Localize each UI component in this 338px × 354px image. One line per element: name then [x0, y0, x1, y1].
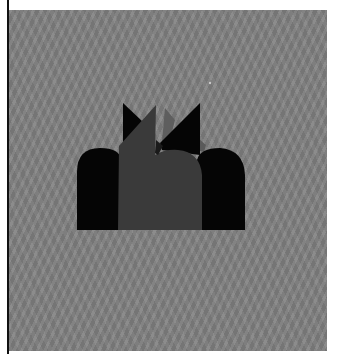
right-black-arch: [197, 148, 245, 230]
left-black-arch: [77, 148, 121, 230]
silhouette-shapes: [0, 0, 338, 354]
light-speck: [209, 82, 211, 84]
